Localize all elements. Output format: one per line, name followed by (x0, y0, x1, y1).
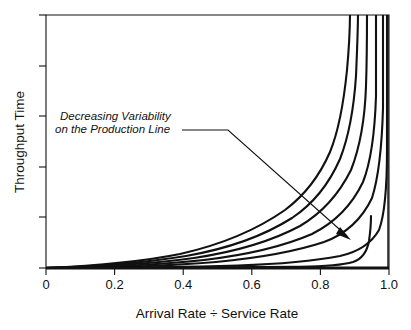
x-tick-label-3: 0.6 (243, 277, 261, 292)
x-tick-label-0: 0 (42, 277, 49, 292)
chart-figure: 0 0.2 0.4 0.6 0.8 1.0 Arrival Rate ÷ Ser… (0, 0, 411, 330)
plot-area-background (46, 15, 389, 268)
x-tick-label-4: 0.8 (311, 277, 329, 292)
annotation-line-2: on the Production Line (55, 123, 170, 135)
y-axis-ticks (39, 15, 46, 268)
throughput-time-chart: 0 0.2 0.4 0.6 0.8 1.0 Arrival Rate ÷ Ser… (0, 0, 411, 330)
x-tick-label-1: 0.2 (106, 277, 124, 292)
x-tick-label-2: 0.4 (174, 277, 192, 292)
y-axis-title: Throughput Time (12, 91, 27, 193)
x-axis-title: Arrival Rate ÷ Service Rate (136, 306, 299, 321)
annotation-line-1: Decreasing Variability (60, 110, 172, 122)
x-tick-label-5: 1.0 (380, 277, 398, 292)
